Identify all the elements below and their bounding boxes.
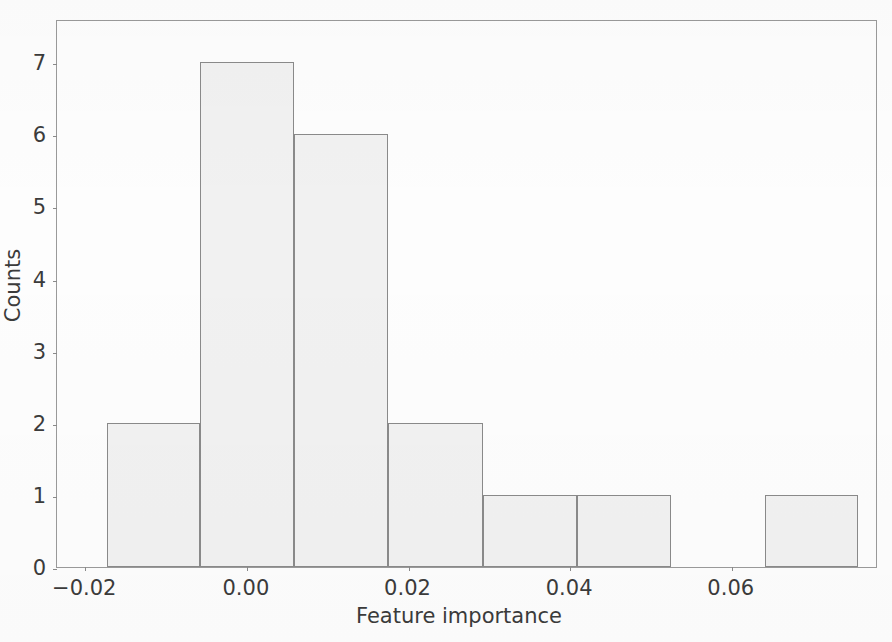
y-axis-tick-mark [53, 136, 57, 137]
x-axis-tick-label: 0.00 [223, 578, 270, 599]
y-axis-tick-label: 6 [33, 125, 46, 146]
x-axis-title: Feature importance [0, 606, 892, 627]
y-axis-tick-label: 1 [33, 485, 46, 506]
y-axis-tick-mark [53, 497, 57, 498]
histogram-bar [107, 423, 200, 567]
y-axis-tick-mark [53, 353, 57, 354]
y-axis-tick-label: 3 [33, 341, 46, 362]
x-axis-tick-mark [85, 567, 86, 571]
histogram-bar [765, 495, 858, 567]
histogram-bar [577, 495, 672, 567]
x-axis-tick-mark [570, 567, 571, 571]
x-axis-tick-label: 0.02 [384, 578, 431, 599]
plot-area [56, 20, 877, 568]
y-axis-title: Counts [3, 226, 24, 346]
histogram-bar [200, 62, 294, 567]
histogram-bar [388, 423, 483, 567]
x-axis-tick-mark [247, 567, 248, 571]
x-axis-tick-label: 0.06 [707, 578, 754, 599]
x-axis-title-text: Feature importance [356, 606, 562, 627]
x-axis-tick-label: −0.02 [52, 578, 116, 599]
y-axis-tick-label: 7 [33, 53, 46, 74]
y-axis-tick-mark [53, 425, 57, 426]
y-axis-tick-label: 0 [33, 558, 46, 579]
x-axis-tick-mark [409, 567, 410, 571]
y-axis-tick-label: 5 [33, 197, 46, 218]
x-axis-tick-mark [732, 567, 733, 571]
y-axis-tick-mark [53, 569, 57, 570]
histogram-figure: 01234567 −0.020.000.020.040.06 Counts Fe… [0, 0, 892, 642]
x-axis-tick-label: 0.04 [546, 578, 593, 599]
y-axis-tick-label: 4 [33, 269, 46, 290]
y-axis-tick-mark [53, 208, 57, 209]
y-axis-tick-mark [53, 64, 57, 65]
histogram-bar [294, 134, 389, 567]
y-axis-tick-label: 2 [33, 413, 46, 434]
histogram-bar [483, 495, 577, 567]
y-axis-tick-mark [53, 281, 57, 282]
